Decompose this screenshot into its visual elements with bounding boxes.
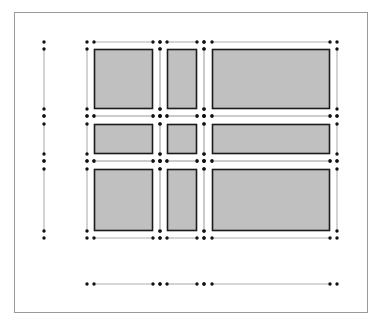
grid-cell-r2-c2 <box>168 125 197 154</box>
bottom-ruler-dot <box>195 282 198 285</box>
cell-corner-dot <box>158 152 161 155</box>
bottom-ruler-dot <box>92 282 95 285</box>
cell-corner-dot <box>85 107 88 110</box>
cell-corner-dot <box>158 114 161 117</box>
cell-corner-dot <box>85 236 88 239</box>
cell-corner-dot <box>85 167 88 170</box>
bottom-ruler-dot <box>202 282 205 285</box>
cell-corner-dot <box>202 107 205 110</box>
grid-cell-r3-c1 <box>95 170 153 231</box>
cell-corner-dot <box>335 152 338 155</box>
left-ruler-dot <box>42 159 45 162</box>
cell-corner-dot <box>202 167 205 170</box>
cell-corner-dot <box>85 229 88 232</box>
left-ruler-dot <box>42 114 45 117</box>
bottom-ruler-dot <box>151 282 154 285</box>
cell-corner-dot <box>335 229 338 232</box>
bottom-ruler-dot <box>210 282 213 285</box>
left-ruler-dot <box>42 47 45 50</box>
cell-corner-dot <box>85 122 88 125</box>
cell-corner-dot <box>92 159 95 162</box>
cell-corner-dot <box>151 236 154 239</box>
cell-corner-dot <box>335 107 338 110</box>
cell-corner-dot <box>195 114 198 117</box>
cell-corner-dot <box>210 236 213 239</box>
cell-corner-dot <box>335 159 338 162</box>
cell-corner-dot <box>165 114 168 117</box>
grid-cell-r2-c1 <box>95 125 153 154</box>
left-ruler-dot <box>42 107 45 110</box>
cell-corner-dot <box>335 114 338 117</box>
cell-corner-dot <box>158 159 161 162</box>
grid-cell-r1-c1 <box>95 50 153 109</box>
grid-cell-r1-c3 <box>213 50 330 109</box>
cell-corner-dot <box>151 40 154 43</box>
left-ruler-dot <box>42 167 45 170</box>
cell-corner-dot <box>92 114 95 117</box>
bottom-ruler-dot <box>85 282 88 285</box>
cell-corner-dot <box>85 47 88 50</box>
cell-corner-dot <box>85 114 88 117</box>
left-ruler-dot <box>42 236 45 239</box>
cell-corner-dot <box>202 114 205 117</box>
cell-corner-dot <box>335 167 338 170</box>
left-ruler-dot <box>42 122 45 125</box>
cell-corner-dot <box>158 236 161 239</box>
grid-cell-r3-c3 <box>213 170 330 231</box>
cell-corner-dot <box>328 40 331 43</box>
cell-corner-dot <box>335 122 338 125</box>
cell-corner-dot <box>335 40 338 43</box>
bottom-ruler-dot <box>328 282 331 285</box>
bottom-ruler-dot <box>335 282 338 285</box>
cell-corner-dot <box>92 40 95 43</box>
cell-corner-dot <box>328 236 331 239</box>
left-ruler-dot <box>42 229 45 232</box>
cell-corner-dot <box>202 159 205 162</box>
cell-corner-dot <box>158 47 161 50</box>
cell-corner-dot <box>85 159 88 162</box>
cell-corner-dot <box>202 152 205 155</box>
cell-corner-dot <box>195 159 198 162</box>
cell-corner-dot <box>151 159 154 162</box>
cell-corner-dot <box>210 40 213 43</box>
cell-corner-dot <box>202 122 205 125</box>
cell-corner-dot <box>85 40 88 43</box>
bottom-ruler-dot <box>165 282 168 285</box>
grid-cell-r1-c2 <box>168 50 197 109</box>
cell-corner-dot <box>158 40 161 43</box>
cell-corner-dot <box>151 114 154 117</box>
cell-corner-dot <box>195 236 198 239</box>
cell-corner-dot <box>158 229 161 232</box>
cell-corner-dot <box>210 159 213 162</box>
cell-corner-dot <box>165 40 168 43</box>
cell-corner-dot <box>328 114 331 117</box>
cell-corner-dot <box>335 47 338 50</box>
cell-corner-dot <box>165 159 168 162</box>
cell-corner-dot <box>158 167 161 170</box>
cell-corner-dot <box>158 122 161 125</box>
cell-corner-dot <box>202 236 205 239</box>
cell-corner-dot <box>210 114 213 117</box>
grid-cell-r3-c2 <box>168 170 197 231</box>
bottom-ruler-dot <box>158 282 161 285</box>
grid-cell-r2-c3 <box>213 125 330 154</box>
cell-corner-dot <box>328 159 331 162</box>
cell-corner-dot <box>195 40 198 43</box>
left-ruler-dot <box>42 152 45 155</box>
cell-corner-dot <box>202 40 205 43</box>
cell-corner-dot <box>165 236 168 239</box>
grid-diagram <box>0 0 382 325</box>
cell-corner-dot <box>335 236 338 239</box>
cell-corner-dot <box>202 47 205 50</box>
cell-corner-dot <box>92 236 95 239</box>
cell-corner-dot <box>85 152 88 155</box>
cell-corner-dot <box>202 229 205 232</box>
cell-corner-dot <box>158 107 161 110</box>
left-ruler-dot <box>42 40 45 43</box>
